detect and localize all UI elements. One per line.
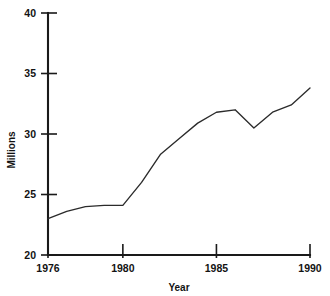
chart-canvas: 2025303540 1976198019851990 Year Million…	[0, 0, 330, 296]
y-tick-label: 20	[24, 249, 36, 261]
line-chart-figure: 2025303540 1976198019851990 Year Million…	[0, 0, 330, 296]
x-tick-label: 1985	[205, 262, 229, 274]
x-tick-label: 1990	[298, 262, 322, 274]
x-tick-label: 1976	[36, 262, 60, 274]
y-tick-label: 25	[24, 188, 36, 200]
y-tick-label: 30	[24, 128, 36, 140]
x-tick-label: 1980	[111, 262, 135, 274]
y-axis-title: Millions	[6, 131, 17, 169]
x-axis-title: Year	[168, 282, 189, 293]
y-tick-label: 40	[24, 7, 36, 19]
plot-background	[0, 0, 330, 296]
y-tick-label: 35	[24, 67, 36, 79]
